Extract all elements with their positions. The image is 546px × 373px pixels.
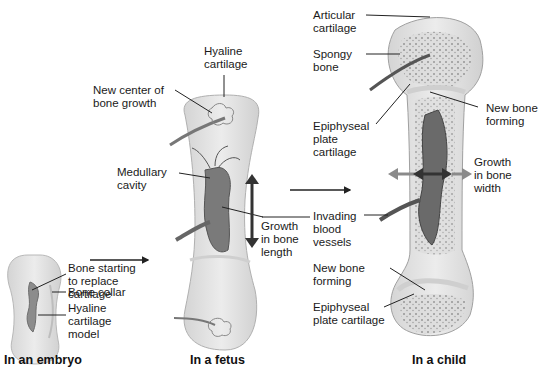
label-new-bone-forming-top: New bone forming xyxy=(486,102,538,128)
bone-growth-diagram: Bone starting to replace cartilage Bone … xyxy=(0,0,546,373)
label-invading-blood-vessels: Invading blood vessels xyxy=(313,210,356,249)
label-medullary-cavity: Medullary cavity xyxy=(117,166,167,192)
label-new-center-of-bone-growth: New center of bone growth xyxy=(93,84,164,110)
caption-child: In a child xyxy=(412,353,466,367)
label-epiphyseal-plate-cartilage-bottom: Epiphyseal plate cartilage xyxy=(313,301,385,327)
embryo-bone xyxy=(8,255,61,364)
label-growth-in-bone-width: Growth in bone width xyxy=(474,156,512,195)
fetus-bone xyxy=(170,95,259,350)
label-new-bone-forming-bottom: New bone forming xyxy=(313,262,365,288)
label-epiphyseal-plate-cartilage-top: Epiphyseal plate cartilage xyxy=(313,120,369,159)
label-articular-cartilage: Articular cartilage xyxy=(313,9,356,35)
label-hyaline-cartilage-model: Hyaline cartilage model xyxy=(68,302,111,341)
growth-length-arrow xyxy=(245,174,259,248)
label-spongy-bone: Spongy bone xyxy=(313,48,352,74)
label-bone-collar: Bone collar xyxy=(68,286,126,299)
label-growth-in-bone-length: Growth in bone length xyxy=(261,220,299,259)
caption-embryo: In an embryo xyxy=(4,353,82,367)
caption-fetus: In a fetus xyxy=(190,353,245,367)
label-hyaline-cartilage: Hyaline cartilage xyxy=(204,45,247,71)
